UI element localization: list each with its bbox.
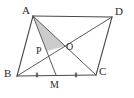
diagonal-ac: [33, 16, 96, 75]
point-label-m: M: [50, 79, 59, 90]
point-label-p: P: [36, 45, 42, 56]
segment-ad: [33, 16, 112, 17]
vertex-label-c: C: [99, 66, 106, 77]
vertex-label-a: A: [22, 5, 30, 16]
segment-ab: [17, 16, 33, 76]
vertex-label-b: B: [4, 68, 11, 79]
segment-bc: [17, 75, 96, 76]
geometry-figure: A B C D M O P: [0, 0, 134, 98]
point-label-o: O: [66, 41, 73, 52]
vertex-label-d: D: [115, 6, 123, 17]
